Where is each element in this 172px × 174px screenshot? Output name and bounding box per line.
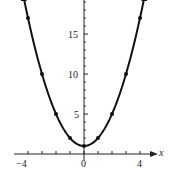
curve-arrow-icon bbox=[21, 0, 27, 1]
data-point bbox=[40, 72, 44, 76]
x-tick-label-0: 0 bbox=[81, 158, 86, 169]
x-tick-label-neg4: −4 bbox=[16, 158, 27, 169]
y-tick-label-15: 15 bbox=[68, 29, 78, 40]
parabola-chart bbox=[0, 0, 172, 174]
data-point bbox=[54, 112, 58, 116]
data-point bbox=[110, 112, 114, 116]
x-tick-label-4: 4 bbox=[137, 158, 142, 169]
data-point bbox=[82, 144, 86, 148]
data-point bbox=[138, 16, 142, 20]
data-point bbox=[124, 72, 128, 76]
x-axis-arrow-icon bbox=[150, 151, 158, 157]
y-tick-label-5: 5 bbox=[74, 109, 79, 120]
data-point bbox=[26, 16, 30, 20]
curve-arrow-icon bbox=[141, 0, 147, 1]
y-tick-label-10: 10 bbox=[68, 69, 78, 80]
x-axis-label: x bbox=[159, 147, 163, 158]
data-point bbox=[68, 136, 72, 140]
data-point bbox=[96, 136, 100, 140]
